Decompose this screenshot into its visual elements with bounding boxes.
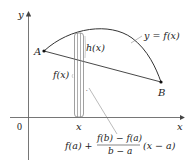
secant-formula: f(a) + f(b) − f(a) b − a (x − a) <box>64 133 176 156</box>
formula-leader <box>89 88 117 134</box>
leader-dot: . <box>86 86 88 92</box>
point-b <box>159 80 162 83</box>
h-label: h(x) <box>86 42 105 53</box>
mean-value-diagram: y x 0 A B h(x) f(x) y = f(x) x . f(a) + … <box>0 0 191 167</box>
strip-outer <box>75 33 84 117</box>
fx-label: f(x) <box>52 69 70 80</box>
point-b-label: B <box>157 87 165 98</box>
curve-label: y = f(x) <box>143 30 180 41</box>
formula-suffix: (x − a) <box>143 140 176 151</box>
formula-denominator: b − a <box>108 146 132 156</box>
point-a <box>42 49 45 52</box>
point-a-label: A <box>33 46 41 57</box>
origin-label: 0 <box>17 121 22 132</box>
diagram-canvas: y x 0 A B h(x) f(x) y = f(x) x . f(a) + … <box>0 0 191 167</box>
formula-prefix: f(a) + <box>64 140 93 151</box>
fx-brace <box>72 74 73 78</box>
x-axis-label: x <box>177 121 183 132</box>
y-axis-label: y <box>17 9 24 20</box>
formula-numerator: f(b) − f(a) <box>96 133 143 143</box>
x-tick-label: x <box>76 121 82 132</box>
